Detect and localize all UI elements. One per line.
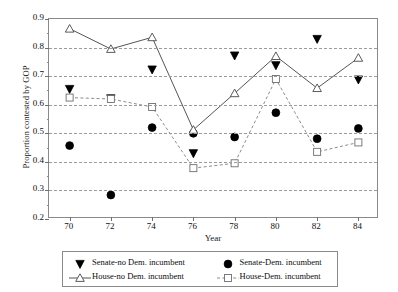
triangle-down-filled-marker (189, 150, 197, 158)
triangle-down-filled-marker (65, 85, 73, 93)
gridline (49, 162, 377, 163)
triangle-up-open-marker (65, 25, 74, 33)
y-tick-mark (45, 105, 49, 106)
legend-row: House-no Dem. incumbent House-Dem. incum… (68, 269, 332, 283)
gridline (49, 76, 377, 77)
y-tick-label: 0.7 (4, 70, 44, 79)
y-tick-mark (45, 190, 49, 191)
x-tick-label: 76 (172, 222, 212, 231)
circle-filled-icon (216, 256, 240, 268)
y-tick-mark (45, 19, 49, 20)
square-open-marker (355, 139, 362, 146)
gridline (49, 48, 377, 49)
x-axis-title: Year (48, 233, 378, 243)
triangle-down-filled-marker (272, 62, 280, 70)
y-tick-minor (47, 205, 49, 206)
x-tick-label: 70 (49, 222, 89, 231)
triangle-up-open-marker (148, 33, 157, 41)
y-tick-minor (47, 90, 49, 91)
legend-entry-house-dem-incumbent: House-Dem. incumbent (216, 269, 332, 283)
legend-label: Senate-no Dem. incumbent (92, 256, 185, 268)
legend-entry-senate-dem-incumbent: Senate-Dem. incumbent (216, 255, 332, 269)
gridline (49, 133, 377, 134)
chart-figure: Proportion contested by GOP 0.90.80.70.6… (0, 0, 398, 292)
x-tick-label: 72 (90, 222, 130, 231)
triangle-down-filled-marker (313, 35, 321, 43)
y-tick-label: 0.6 (4, 99, 44, 108)
legend-label: House-no Dem. incumbent (92, 270, 184, 282)
triangle-up-open-icon (68, 270, 92, 282)
y-tick-minor (47, 148, 49, 149)
x-tick-label: 78 (214, 222, 254, 231)
circle-filled-marker (354, 125, 362, 133)
gridline (49, 105, 377, 106)
y-tick-mark (45, 48, 49, 49)
triangle-down-filled-marker (354, 76, 362, 84)
x-tick-label: 74 (131, 222, 171, 231)
y-tick-minor (47, 119, 49, 120)
y-tick-label: 0.9 (4, 13, 44, 22)
y-tick-label: 0.8 (4, 42, 44, 51)
plot-area (48, 18, 378, 218)
triangle-up-open-marker (313, 84, 322, 92)
x-tick-label: 80 (255, 222, 295, 231)
y-tick-label: 0.4 (4, 156, 44, 165)
circle-filled-marker (148, 124, 156, 132)
y-tick-minor (47, 176, 49, 177)
triangle-up-open-marker (354, 54, 363, 62)
circle-filled-marker (224, 260, 232, 268)
triangle-down-filled-icon (68, 256, 92, 268)
gridline (49, 190, 377, 191)
y-tick-minor (47, 33, 49, 34)
triangle-down-filled-marker (148, 66, 156, 74)
legend-entry-senate-no-dem-incumbent: Senate-no Dem. incumbent (68, 255, 216, 269)
y-tick-mark (45, 162, 49, 163)
circle-filled-marker (313, 135, 321, 143)
y-tick-label: 0.3 (4, 184, 44, 193)
legend-label: House-Dem. incumbent (240, 270, 321, 282)
triangle-up-open-marker (272, 52, 281, 60)
chart-legend: Senate-no Dem. incumbent Senate-Dem. inc… (62, 251, 338, 287)
circle-filled-marker (107, 191, 115, 199)
x-tick-label: 82 (296, 222, 336, 231)
legend-label: Senate-Dem. incumbent (240, 256, 322, 268)
y-tick-mark (45, 76, 49, 77)
legend-entry-house-no-dem-incumbent: House-no Dem. incumbent (68, 269, 216, 283)
legend-row: Senate-no Dem. incumbent Senate-Dem. inc… (68, 255, 332, 269)
y-tick-label: 0.2 (4, 213, 44, 222)
square-open-icon (216, 270, 240, 282)
series-line (70, 29, 359, 130)
y-axis-title: Proportion contested by GOP (21, 37, 31, 197)
square-open-marker (231, 160, 238, 167)
x-tick-label: 84 (337, 222, 377, 231)
circle-filled-marker (66, 142, 74, 150)
y-tick-label: 0.5 (4, 127, 44, 136)
square-open-marker (107, 96, 114, 103)
circle-filled-marker (272, 109, 280, 117)
square-open-marker (190, 165, 197, 172)
square-open-marker (314, 148, 321, 155)
y-tick-minor (47, 62, 49, 63)
y-tick-mark (45, 219, 49, 220)
square-open-marker (66, 94, 73, 101)
triangle-down-filled-marker (230, 52, 238, 60)
triangle-down-filled-marker (76, 260, 84, 268)
series-canvas (49, 19, 379, 219)
square-open-marker (224, 275, 231, 282)
y-tick-mark (45, 133, 49, 134)
